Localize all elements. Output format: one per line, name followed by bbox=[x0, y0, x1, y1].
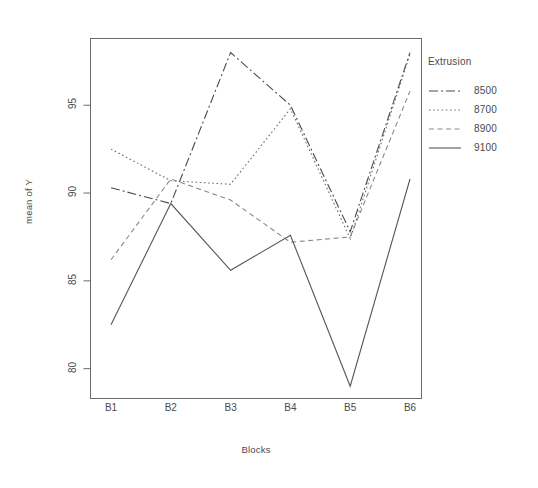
legend-label: 8500 bbox=[474, 85, 497, 96]
x-tick-label: B2 bbox=[156, 402, 186, 413]
y-axis-tick-marks bbox=[84, 105, 91, 368]
series-line-9100 bbox=[111, 179, 410, 386]
legend-label: 9100 bbox=[474, 142, 497, 153]
legend-entry-8700: 8700 bbox=[428, 100, 532, 119]
legend-swatch-8700 bbox=[428, 105, 462, 115]
y-tick-label: 95 bbox=[66, 92, 77, 116]
series-line-8700 bbox=[111, 54, 410, 238]
legend-label: 8900 bbox=[474, 123, 497, 134]
legend-title: Extrusion bbox=[428, 56, 532, 67]
legend-swatch-8500 bbox=[428, 86, 462, 96]
y-tick-label: 90 bbox=[66, 180, 77, 204]
x-tick-label: B5 bbox=[335, 402, 365, 413]
y-tick-label: 80 bbox=[66, 355, 77, 379]
x-tick-label: B3 bbox=[216, 402, 246, 413]
x-axis-title: Blocks bbox=[90, 444, 422, 455]
x-tick-label: B1 bbox=[96, 402, 126, 413]
legend-swatch-8900 bbox=[428, 124, 462, 134]
legend-entry-8500: 8500 bbox=[428, 81, 532, 100]
series-line-8500 bbox=[111, 53, 410, 232]
data-series-layer bbox=[111, 53, 410, 387]
x-tick-label: B4 bbox=[275, 402, 305, 413]
legend-swatch-9100 bbox=[428, 143, 462, 153]
legend-label: 8700 bbox=[474, 104, 497, 115]
y-axis-title: mean of Y bbox=[23, 152, 34, 252]
x-tick-label: B6 bbox=[395, 402, 425, 413]
legend: Extrusion 8500870089009100 bbox=[428, 56, 532, 157]
legend-entry-9100: 9100 bbox=[428, 138, 532, 157]
legend-entry-8900: 8900 bbox=[428, 119, 532, 138]
legend-entries: 8500870089009100 bbox=[428, 81, 532, 157]
interaction-plot: 80859095 B1B2B3B4B5B6 mean of Y Blocks E… bbox=[0, 0, 538, 488]
plot-frame bbox=[91, 39, 422, 399]
y-tick-label: 85 bbox=[66, 267, 77, 291]
